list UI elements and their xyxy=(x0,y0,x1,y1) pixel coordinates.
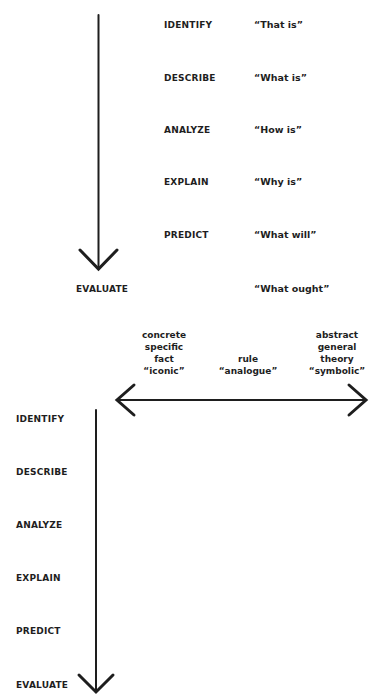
bottom-level-identify: IDENTIFY xyxy=(16,414,64,424)
top-level-describe: DESCRIBE xyxy=(164,73,216,83)
bottom-level-evaluate: EVALUATE xyxy=(16,680,68,690)
continuum-middle-0: rule xyxy=(208,353,288,365)
top-quote-describe: “What is” xyxy=(254,72,307,83)
top-quote-analyze: “How is” xyxy=(254,124,302,135)
continuum-middle-labels: rule “analogue” xyxy=(208,353,288,377)
continuum-left-0: concrete xyxy=(128,329,200,341)
continuum-right-1: general xyxy=(297,341,377,353)
double-headed-arrow-icon xyxy=(117,385,366,415)
top-down-arrow-icon xyxy=(80,15,117,269)
bottom-level-explain: EXPLAIN xyxy=(16,573,61,583)
top-level-explain: EXPLAIN xyxy=(164,177,209,187)
bottom-level-describe: DESCRIBE xyxy=(16,467,68,477)
continuum-middle-1: “analogue” xyxy=(208,365,288,377)
top-level-predict: PREDICT xyxy=(164,230,209,240)
top-level-evaluate: EVALUATE xyxy=(76,284,128,294)
top-quote-predict: “What will” xyxy=(254,229,317,240)
top-level-analyze: ANALYZE xyxy=(164,125,210,135)
continuum-right-2: theory xyxy=(297,353,377,365)
continuum-right-3: “symbolic” xyxy=(297,365,377,377)
continuum-left-labels: concrete specific fact “iconic” xyxy=(128,329,200,377)
top-level-identify: IDENTIFY xyxy=(164,20,212,30)
continuum-right-labels: abstract general theory “symbolic” xyxy=(297,329,377,377)
continuum-right-0: abstract xyxy=(297,329,377,341)
bottom-level-predict: PREDICT xyxy=(16,626,61,636)
bottom-level-analyze: ANALYZE xyxy=(16,520,62,530)
continuum-left-3: “iconic” xyxy=(128,365,200,377)
continuum-left-1: specific xyxy=(128,341,200,353)
bottom-down-arrow-icon xyxy=(79,410,113,692)
continuum-left-2: fact xyxy=(128,353,200,365)
top-quote-evaluate: “What ought” xyxy=(254,283,329,294)
top-quote-identify: “That is” xyxy=(254,19,303,30)
top-quote-explain: “Why is” xyxy=(254,176,302,187)
